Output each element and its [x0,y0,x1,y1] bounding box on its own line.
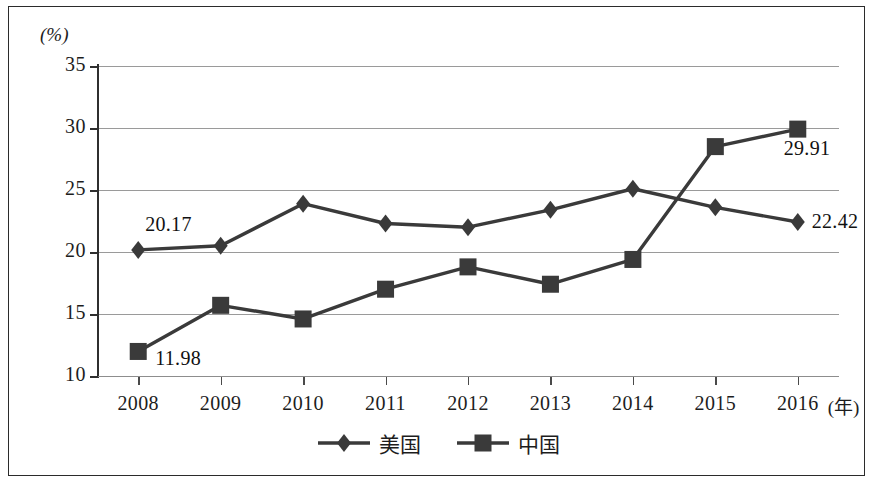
x-axis-tick [550,377,551,385]
gridline [97,128,839,129]
y-axis-tick-label: 30 [65,115,86,138]
gridline [97,66,839,67]
x-axis-tick-label: 2013 [530,392,572,415]
y-axis-tick [90,252,98,254]
y-axis-tick [90,66,98,68]
x-axis-tick [798,377,799,385]
y-axis-tick [90,128,98,130]
plot-area [97,66,839,376]
chart-screenshot: (%) 101520253035 20082009201020112012201… [0,0,875,483]
data-point-label: 20.17 [145,213,192,236]
x-axis-tick [303,377,304,385]
x-axis-tick-label: 2014 [612,392,654,415]
x-axis-tick-label: 2016 [777,392,819,415]
x-axis-tick [386,377,387,385]
square-marker-icon [455,432,511,454]
x-axis-tick [633,377,634,385]
gridline [97,252,839,253]
data-point-label: 11.98 [155,347,201,370]
y-axis-tick [90,376,98,378]
y-axis-tick [90,314,98,316]
y-axis-tick-label: 20 [65,239,86,262]
y-axis-tick [90,190,98,192]
gridline [97,314,839,315]
legend-label: 美国 [379,428,421,458]
x-axis-tick [221,377,222,385]
x-axis-tick-label: 2010 [282,392,324,415]
legend-label: 中国 [518,428,560,458]
x-axis-tick-label: 2008 [117,392,159,415]
legend-item-us[interactable]: 美国 [316,428,421,458]
x-axis-tick [715,377,716,385]
data-point-label: 22.42 [812,210,859,233]
x-axis-tick [138,377,139,385]
x-axis-tick [468,377,469,385]
gridline [97,190,839,191]
y-axis-line [97,64,99,378]
data-point-label: 29.91 [784,137,831,160]
y-axis-labels: 101520253035 [20,0,86,483]
diamond-marker-icon [316,432,372,454]
y-axis-tick-label: 25 [65,177,86,200]
y-axis-tick-label: 15 [65,301,86,324]
y-axis-tick-label: 10 [65,363,86,386]
y-axis-tick-label: 35 [65,53,86,76]
x-axis-unit-label: (年) [828,392,860,419]
chart-legend: 美国中国 [0,428,875,458]
x-axis-tick-label: 2011 [365,392,406,415]
x-axis-tick-label: 2015 [695,392,737,415]
x-axis-tick-label: 2009 [200,392,242,415]
x-axis-tick-label: 2012 [447,392,489,415]
legend-item-china[interactable]: 中国 [455,428,560,458]
